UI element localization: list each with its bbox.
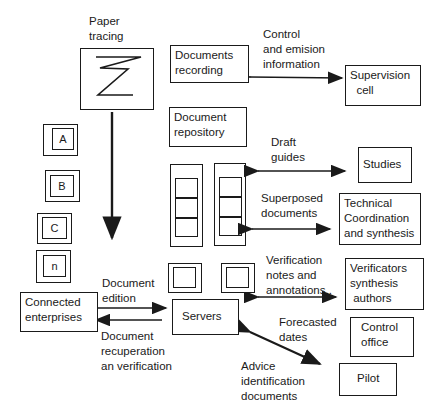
verification-notes-label: Verification notes and annotations.. <box>266 253 332 298</box>
document-recuperation-label: Document recuperation an verification <box>101 329 172 374</box>
forecasted-dates-label: Forecasted dates <box>279 315 337 345</box>
draft-guides-label: Draft guides <box>271 135 305 165</box>
technical-coordination-box: Technical Coordination and synthesis <box>339 193 421 245</box>
stack-item-b: B <box>45 170 80 202</box>
superposed-documents-label: Superposed documents <box>261 191 323 221</box>
server-doc-icon-1 <box>168 263 202 293</box>
stack-item-n: n <box>36 250 71 283</box>
control-office-box: Control office <box>350 317 414 357</box>
paper-tracing-icon <box>80 48 154 110</box>
stack-item-a: A <box>43 124 78 156</box>
document-edition-label: Document edition <box>102 276 154 306</box>
server-doc-icon-2 <box>221 263 255 293</box>
connected-enterprises-box: Connected enterprises <box>20 292 98 332</box>
document-repository-box: Document repository <box>169 107 247 147</box>
studies-box: Studies <box>358 147 412 183</box>
repository-stack-1 <box>170 164 203 247</box>
servers-box: Servers <box>172 299 239 335</box>
documents-recording-box: Documents recording <box>170 45 249 83</box>
stack-item-c: C <box>37 213 72 244</box>
repository-stack-2 <box>214 163 246 246</box>
supervision-cell-box: Supervision cell <box>345 65 421 106</box>
advice-identification-label: Advice identification documents <box>241 359 305 404</box>
pilot-box: Pilot <box>339 363 397 396</box>
verificators-box: Verificators synthesis authors <box>345 258 424 310</box>
paper-tracing-label: Paper tracing <box>89 14 124 44</box>
control-emision-label: Control and emision information <box>263 27 325 72</box>
